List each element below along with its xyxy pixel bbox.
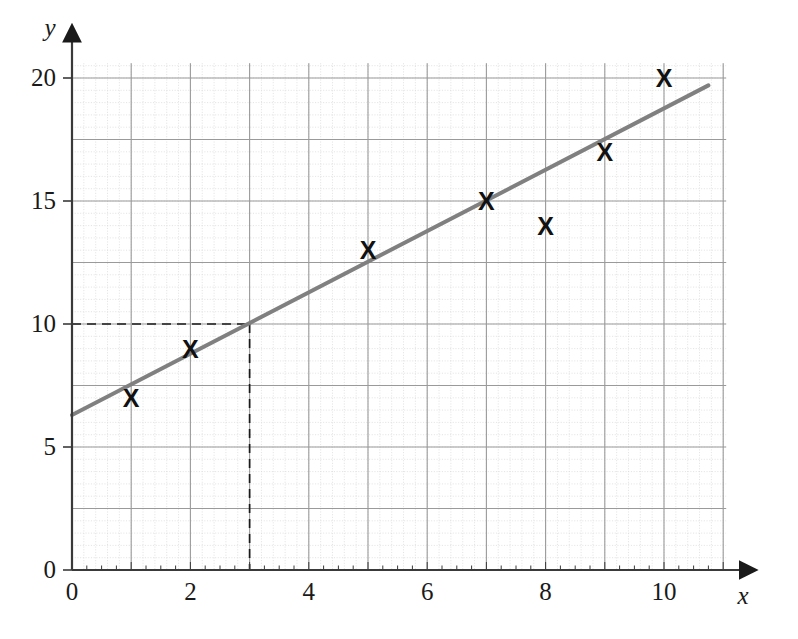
y-tick-label: 15 [31, 187, 56, 214]
chart-canvas: 0246810 05101520 XXXXXXX x y [0, 0, 798, 639]
data-point-marker: X [123, 384, 140, 412]
x-axis-label: x [736, 582, 748, 609]
x-tick-label: 2 [184, 578, 197, 605]
y-tick-label: 0 [44, 556, 57, 583]
data-point-marker: X [656, 64, 673, 92]
major-gridlines [72, 63, 726, 570]
data-point-marker: X [182, 335, 199, 363]
data-point-marker: X [596, 138, 613, 166]
x-axis-tick-labels: 0246810 [66, 578, 677, 605]
data-point-marker: X [478, 187, 495, 215]
y-axis-tick-labels: 05101520 [31, 64, 56, 583]
y-axis-label: y [41, 14, 56, 41]
y-tick-label: 5 [44, 433, 57, 460]
y-tick-label: 10 [31, 310, 56, 337]
x-tick-label: 4 [303, 578, 316, 605]
x-tick-label: 0 [66, 578, 79, 605]
y-tick-label: 20 [31, 64, 56, 91]
x-tick-label: 10 [652, 578, 677, 605]
x-tick-label: 6 [421, 578, 434, 605]
scatter-plot-with-line-of-best-fit: 0246810 05101520 XXXXXXX x y [0, 0, 798, 639]
data-point-marker: X [360, 236, 377, 264]
x-tick-label: 8 [539, 578, 552, 605]
data-point-marker: X [537, 212, 554, 240]
